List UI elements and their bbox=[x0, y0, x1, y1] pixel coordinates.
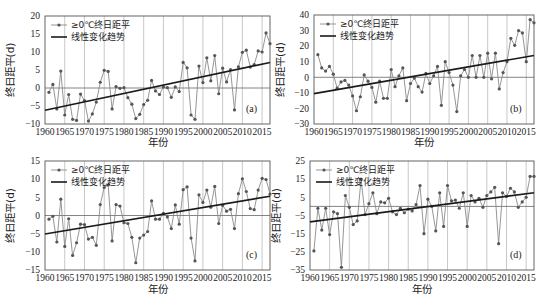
x-tick-label: 1970 bbox=[75, 273, 94, 283]
legend-marker-icon bbox=[57, 23, 60, 26]
trend-line bbox=[314, 55, 534, 93]
x-tick-label: 1960 bbox=[301, 273, 320, 283]
x-tick-label: 1995 bbox=[174, 127, 193, 137]
x-tick-label: 1965 bbox=[55, 273, 74, 283]
data-point-marker bbox=[411, 209, 414, 212]
legend-marker-icon bbox=[322, 168, 325, 171]
x-tick-label: 1960 bbox=[305, 127, 324, 137]
data-point-marker bbox=[440, 104, 443, 107]
y-tick-label: −25 bbox=[290, 247, 305, 257]
data-point-marker bbox=[111, 239, 114, 242]
data-point-marker bbox=[51, 83, 54, 86]
data-point-marker bbox=[237, 192, 240, 195]
data-point-marker bbox=[182, 188, 185, 191]
data-point-marker bbox=[462, 191, 465, 194]
data-point-marker bbox=[217, 222, 220, 225]
data-point-marker bbox=[470, 194, 473, 197]
data-point-marker bbox=[409, 82, 412, 85]
x-tick-label: 1965 bbox=[55, 127, 74, 137]
data-point-marker bbox=[67, 93, 70, 96]
y-tick-label: −15 bbox=[290, 229, 305, 239]
panel-label: (d) bbox=[510, 249, 522, 261]
data-point-marker bbox=[71, 118, 74, 121]
x-tick-label: 2000 bbox=[459, 127, 478, 137]
data-point-marker bbox=[178, 223, 181, 226]
data-point-marker bbox=[75, 119, 78, 122]
x-tick-label: 1985 bbox=[399, 273, 418, 283]
data-point-marker bbox=[428, 82, 431, 85]
data-point-marker bbox=[213, 54, 216, 57]
x-tick-label: 1980 bbox=[114, 127, 133, 137]
legend-trend-label: 线性变化趋势 bbox=[71, 176, 125, 187]
data-point-marker bbox=[405, 99, 408, 102]
data-point-marker bbox=[95, 244, 98, 247]
data-point-marker bbox=[138, 113, 141, 116]
data-point-marker bbox=[197, 193, 200, 196]
data-point-marker bbox=[225, 210, 228, 213]
data-point-marker bbox=[475, 76, 478, 79]
data-point-marker bbox=[395, 213, 398, 216]
chart-panel-d: 25155−5−15−25−35196019651970197519801985… bbox=[270, 156, 536, 295]
legend-series-label: ≥0℃终日距平 bbox=[71, 19, 130, 30]
data-point-marker bbox=[95, 100, 98, 103]
data-point-marker bbox=[347, 83, 350, 86]
data-point-marker bbox=[114, 203, 117, 206]
data-point-marker bbox=[324, 207, 327, 210]
y-tick-label: 5 bbox=[35, 65, 40, 75]
data-point-marker bbox=[154, 218, 157, 221]
y-tick-label: 20 bbox=[300, 41, 310, 51]
data-point-marker bbox=[75, 241, 78, 244]
data-point-marker bbox=[348, 206, 351, 209]
data-point-marker bbox=[261, 177, 264, 180]
data-point-marker bbox=[417, 85, 420, 88]
data-point-marker bbox=[111, 107, 114, 110]
data-point-marker bbox=[478, 54, 481, 57]
data-point-marker bbox=[481, 206, 484, 209]
data-point-marker bbox=[264, 178, 267, 181]
data-point-marker bbox=[316, 53, 319, 56]
y-tick-label: −5 bbox=[30, 101, 40, 111]
data-point-marker bbox=[138, 236, 141, 239]
y-tick-label: −20 bbox=[294, 104, 309, 114]
data-point-marker bbox=[193, 259, 196, 262]
data-point-marker bbox=[158, 93, 161, 96]
data-point-marker bbox=[245, 49, 248, 52]
y-tick-label: 15 bbox=[31, 29, 41, 39]
data-point-marker bbox=[324, 69, 327, 72]
data-point-marker bbox=[344, 194, 347, 197]
data-point-marker bbox=[532, 175, 535, 178]
data-point-marker bbox=[170, 227, 173, 230]
x-axis-label: 年份 bbox=[414, 136, 435, 148]
panel-label: (c) bbox=[246, 249, 257, 261]
data-point-marker bbox=[502, 71, 505, 74]
y-tick-label: 10 bbox=[31, 174, 41, 184]
data-point-marker bbox=[447, 71, 450, 74]
data-point-marker bbox=[383, 201, 386, 204]
data-point-marker bbox=[371, 191, 374, 194]
data-point-marker bbox=[450, 199, 453, 202]
chart-figure: 20151050−5−10196019651970197519801985199… bbox=[0, 0, 548, 305]
data-point-marker bbox=[253, 208, 256, 211]
data-point-marker bbox=[193, 118, 196, 121]
y-tick-label: 30 bbox=[300, 26, 310, 36]
data-point-marker bbox=[521, 31, 524, 34]
data-point-marker bbox=[336, 212, 339, 215]
x-tick-label: 2015 bbox=[517, 127, 536, 137]
x-tick-label: 2015 bbox=[517, 273, 536, 283]
data-point-marker bbox=[339, 80, 342, 83]
x-tick-label: 1975 bbox=[359, 273, 378, 283]
data-point-marker bbox=[486, 52, 489, 55]
x-tick-label: 1995 bbox=[440, 127, 459, 137]
legend-trend-label: 线性变化趋势 bbox=[336, 176, 390, 187]
data-point-marker bbox=[370, 86, 373, 89]
data-point-marker bbox=[446, 184, 449, 187]
data-point-marker bbox=[482, 76, 485, 79]
x-tick-label: 2000 bbox=[458, 273, 477, 283]
legend-series-label: ≥0℃终日距平 bbox=[340, 18, 399, 29]
data-point-marker bbox=[130, 236, 133, 239]
x-tick-label: 1990 bbox=[154, 273, 173, 283]
y-axis-label: 终日距平(d) bbox=[270, 188, 282, 243]
x-tick-label: 1990 bbox=[418, 273, 437, 283]
data-point-marker bbox=[403, 211, 406, 214]
data-point-marker bbox=[79, 223, 82, 226]
